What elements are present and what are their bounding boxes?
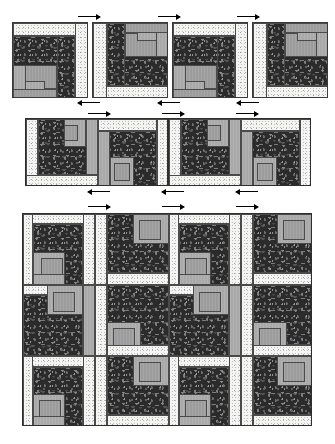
piece-light xyxy=(83,214,95,285)
piece-grey xyxy=(283,362,305,382)
piece-grey xyxy=(257,163,273,181)
piece-grey xyxy=(139,220,161,240)
piece-grey xyxy=(229,285,241,356)
quilt-block xyxy=(92,22,168,98)
piece-light xyxy=(107,273,169,285)
piece-grey xyxy=(86,119,98,175)
piece-grey xyxy=(53,292,75,312)
piece-light xyxy=(95,356,107,426)
piece-grey xyxy=(139,362,161,382)
piece-light xyxy=(95,214,107,285)
piece-light xyxy=(253,345,312,356)
piece-light xyxy=(26,175,98,186)
piece-light xyxy=(241,214,253,285)
seam-arrow-left xyxy=(88,188,110,195)
piece-grey xyxy=(241,131,253,186)
piece-light xyxy=(241,119,300,131)
piece-dark xyxy=(107,23,125,86)
piece-dark xyxy=(217,36,235,98)
piece-light xyxy=(229,356,241,426)
piece-grey xyxy=(114,163,130,181)
piece-light xyxy=(98,119,157,131)
piece-grey xyxy=(83,285,95,356)
piece-grey xyxy=(207,125,221,141)
piece-light xyxy=(23,356,33,426)
piece-grey xyxy=(259,328,281,346)
piece-grey xyxy=(64,125,78,141)
piece-grey xyxy=(229,119,241,175)
piece-grey xyxy=(13,89,57,98)
quilt-block-pair xyxy=(168,118,311,186)
piece-light xyxy=(107,345,169,356)
piece-light xyxy=(253,273,312,285)
piece-light xyxy=(241,356,253,426)
quilt-block xyxy=(252,22,328,98)
section-full-quilt-top xyxy=(0,200,335,444)
seam-arrow-right xyxy=(88,203,110,210)
piece-light xyxy=(241,285,253,356)
piece-grey xyxy=(179,274,211,285)
piece-light xyxy=(107,415,169,426)
seam-arrow-right xyxy=(236,110,258,117)
piece-grey xyxy=(33,274,65,285)
piece-light xyxy=(300,119,311,186)
seam-arrow-right xyxy=(78,13,100,20)
piece-light xyxy=(93,23,107,98)
piece-light xyxy=(83,356,95,426)
quilt-block xyxy=(12,22,88,98)
piece-light xyxy=(169,356,179,426)
piece-light xyxy=(229,214,241,285)
piece-grey xyxy=(179,416,211,426)
section-joined-pair-row xyxy=(0,104,335,200)
piece-light xyxy=(157,119,168,186)
piece-grey xyxy=(283,220,305,240)
seam-arrow-left xyxy=(162,188,184,195)
seam-arrow-right xyxy=(158,13,180,20)
piece-light xyxy=(75,23,88,98)
piece-grey xyxy=(285,23,328,33)
piece-grey xyxy=(173,89,217,98)
piece-light xyxy=(95,285,107,356)
piece-light xyxy=(235,23,248,98)
piece-grey xyxy=(125,23,168,33)
seam-arrow-left xyxy=(236,188,258,195)
piece-light xyxy=(23,214,33,285)
seam-arrow-right xyxy=(162,110,184,117)
seam-arrow-right xyxy=(237,13,259,20)
piece-grey xyxy=(33,416,65,426)
quilt-block-pair xyxy=(25,118,168,186)
seam-arrow-right xyxy=(88,110,110,117)
piece-dark xyxy=(267,23,285,86)
seam-arrow-right xyxy=(162,203,184,210)
piece-grey xyxy=(113,328,135,346)
quilt-top-grid xyxy=(22,213,312,426)
piece-light xyxy=(253,415,312,426)
piece-grey xyxy=(98,131,110,186)
piece-grey xyxy=(199,292,221,312)
piece-light xyxy=(253,23,267,98)
quilt-block xyxy=(172,22,248,98)
seam-arrow-right xyxy=(236,203,258,210)
piece-light xyxy=(169,175,241,186)
piece-dark xyxy=(57,36,75,98)
quilt-assembly-diagram xyxy=(0,0,335,444)
piece-light xyxy=(169,214,179,285)
section-single-block-row xyxy=(0,0,335,104)
